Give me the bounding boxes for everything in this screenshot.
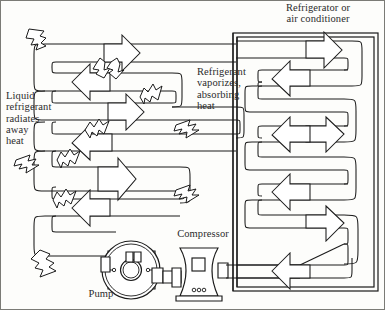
enclosure-title-label: Refrigerator or air conditioner [258, 2, 378, 25]
condenser-flow-arrows [72, 35, 144, 226]
condenser-note-label: Liquid refrigerant radiates away heat [6, 90, 68, 147]
pump-label: Pump [73, 288, 129, 299]
compressor-label: Compressor [163, 228, 243, 239]
evaporator-flow-arrows [272, 32, 344, 289]
refrigeration-cycle-svg: .pipe { fill: none; stroke: #1a1a1a; str… [0, 0, 385, 310]
diagram-canvas: .pipe { fill: none; stroke: #1a1a1a; str… [0, 0, 385, 310]
evaporator-note-label: Refrigerant vaporizes, absorbing heat [197, 66, 263, 111]
compressor [163, 248, 228, 301]
heat-radiation-arrows [14, 29, 199, 277]
